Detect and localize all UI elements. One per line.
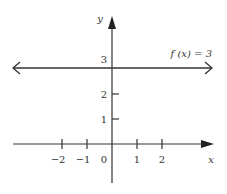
y-tick-label: 1 (101, 114, 107, 125)
graph: −2 −1 0 1 2 1 2 3 y x f (x) = 3 (0, 0, 227, 194)
x-tick-label: 2 (159, 154, 165, 165)
y-tick-label: 2 (101, 89, 107, 100)
x-tick-label: 1 (134, 154, 140, 165)
y-tick-label: 3 (101, 54, 107, 65)
x-tick-label: −1 (76, 154, 91, 165)
function-label: f (x) = 3 (170, 48, 212, 59)
x-tick-label: 0 (101, 154, 107, 165)
x-tick-label: −2 (51, 154, 66, 165)
y-ticks (112, 94, 119, 119)
y-axis-arrow-icon (108, 16, 116, 29)
x-axis-label: x (208, 154, 214, 165)
x-axis-arrow-icon (201, 140, 214, 148)
y-axis-label: y (96, 13, 103, 24)
